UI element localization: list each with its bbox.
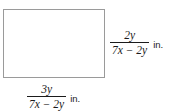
width-fraction-numerator: 3y (38, 83, 55, 96)
rectangle-figure: 2y 7x − 2y in. 3y 7x − 2y in. (0, 0, 170, 111)
height-fraction-denominator: 7x − 2y (110, 43, 149, 56)
height-fraction: 2y 7x − 2y (110, 29, 149, 56)
width-measurement-label: 3y 7x − 2y in. (27, 83, 80, 110)
width-fraction-denominator: 7x − 2y (27, 97, 66, 110)
height-unit-label: in. (153, 36, 163, 50)
rectangle-outline (3, 9, 105, 78)
width-unit-label: in. (70, 90, 80, 104)
width-fraction: 3y 7x − 2y (27, 83, 66, 110)
height-fraction-numerator: 2y (121, 29, 138, 42)
height-measurement-label: 2y 7x − 2y in. (110, 29, 163, 56)
